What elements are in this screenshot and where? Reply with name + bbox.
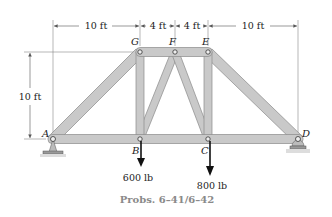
joint-label-f: F: [168, 36, 177, 47]
member-ag: [49, 49, 144, 142]
figure-caption: Probs. 6–41/6–42: [120, 194, 214, 205]
load-label-b: 600 lb: [123, 172, 153, 183]
dim-label-ag: 10 ft: [85, 20, 108, 31]
joint-label-e: E: [201, 36, 210, 47]
dim-label-height: 10 ft: [19, 91, 42, 102]
truss-members: [48, 48, 303, 144]
joint-label-c: C: [201, 145, 209, 156]
joint-label-b: B: [131, 145, 139, 156]
truss-figure: 10 ft 4 ft 4 ft 10 ft 10 ft: [0, 0, 332, 217]
member-gb: [136, 52, 144, 139]
joint-label-a: A: [41, 128, 49, 139]
load-label-c: 800 lb: [197, 180, 227, 191]
joint-label-g: G: [131, 36, 139, 47]
dim-label-gf: 4 ft: [150, 20, 167, 31]
dim-label-fe: 4 ft: [184, 20, 201, 31]
dim-label-ed: 10 ft: [242, 20, 265, 31]
joint-label-d: D: [301, 128, 310, 139]
member-ec: [204, 52, 212, 139]
member-ed: [204, 49, 302, 142]
member-bottom-chord: [48, 135, 303, 144]
